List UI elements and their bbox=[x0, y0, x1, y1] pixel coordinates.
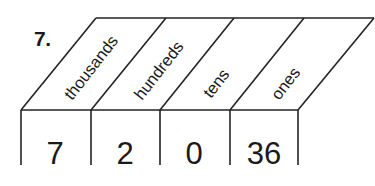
value-ones: 36 bbox=[247, 136, 281, 171]
place-value-chart: thousands hundreds tens ones 7 2 0 36 bbox=[0, 0, 375, 186]
header-hundreds: hundreds bbox=[130, 38, 187, 103]
value-hundreds: 2 bbox=[116, 136, 133, 171]
header-divider bbox=[298, 18, 374, 110]
header-divider bbox=[230, 18, 304, 110]
header-tens: tens bbox=[199, 65, 232, 101]
value-thousands: 7 bbox=[46, 136, 63, 171]
value-tens: 0 bbox=[185, 136, 202, 171]
header-ones: ones bbox=[267, 64, 303, 103]
header-thousands: thousands bbox=[60, 32, 121, 103]
